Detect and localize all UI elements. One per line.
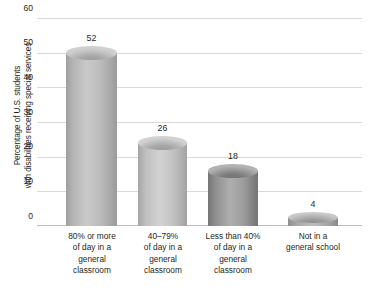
bar-40-to-79-percent[interactable]: 26 [138, 136, 187, 226]
x-category-3-line-4: classroom [187, 265, 279, 276]
y-axis-tick-labels: 60 50 40 30 20 10 0 [14, 0, 33, 293]
y-tick-20: 20 [14, 142, 33, 151]
y-tick-50: 50 [14, 38, 33, 47]
y-tick-10: 10 [14, 177, 33, 186]
bar-value-label: 26 [158, 124, 168, 133]
y-tick-30: 30 [14, 108, 33, 117]
y-tick-40: 40 [14, 73, 33, 82]
y-tick-0: 0 [14, 212, 33, 221]
x-axis-category-labels: 80% or more of day in a general classroo… [37, 231, 362, 293]
y-tick-60: 60 [14, 4, 33, 13]
bar-80-percent-or-more[interactable]: 52 [66, 46, 117, 226]
bar-top-ellipse [208, 164, 258, 178]
x-category-3-line-3: general [187, 254, 279, 265]
bar-value-label: 52 [87, 34, 97, 43]
bar-chart-figure: Percentage of U.S. students with disabil… [0, 0, 368, 293]
gridline-60 [37, 18, 362, 19]
bar-body [138, 143, 187, 226]
bar-not-in-general-school[interactable]: 4 [288, 212, 338, 226]
x-category-4-line-2: general school [266, 242, 360, 253]
bar-body [208, 171, 258, 226]
bar-less-than-40-percent[interactable]: 18 [208, 164, 258, 226]
x-category-label-4: Not in a general school [266, 231, 360, 254]
bar-top-ellipse [66, 46, 117, 60]
x-category-4-line-1: Not in a [266, 231, 360, 242]
bar-top-ellipse [138, 136, 187, 150]
bar-body [66, 53, 117, 226]
bar-value-label: 4 [311, 200, 316, 209]
bar-value-label: 18 [228, 152, 238, 161]
plot-area: 52 26 18 4 [37, 18, 362, 226]
